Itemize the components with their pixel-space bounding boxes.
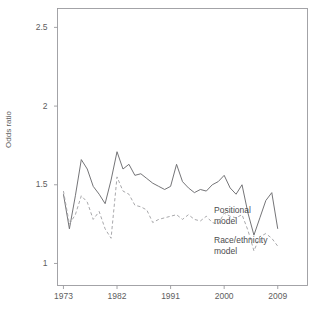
x-tick-label: 2009 bbox=[263, 291, 293, 301]
x-tick-label: 1973 bbox=[48, 291, 78, 301]
series-label-2: Race/ethnicitymodel bbox=[214, 235, 267, 256]
y-tick-label: 1 bbox=[24, 258, 48, 268]
series-label-line: model bbox=[214, 246, 267, 257]
series-label-line: Race/ethnicity bbox=[214, 235, 267, 246]
series-label-1: Positionalmodel bbox=[214, 205, 251, 226]
plot-frame bbox=[58, 9, 308, 286]
series-label-line: model bbox=[214, 216, 251, 227]
x-tick-label: 2000 bbox=[209, 291, 239, 301]
line-chart-plot bbox=[0, 0, 320, 317]
y-tick-label: 2 bbox=[24, 101, 48, 111]
series-label-line: Positional bbox=[214, 205, 251, 216]
y-tick-label: 2.5 bbox=[24, 22, 48, 32]
x-tick-label: 1982 bbox=[102, 291, 132, 301]
y-tick-label: 1.5 bbox=[24, 179, 48, 189]
figure-root: Odds ratio 11.522.5 19731982199120002009… bbox=[0, 0, 320, 317]
x-tick-label: 1991 bbox=[156, 291, 186, 301]
